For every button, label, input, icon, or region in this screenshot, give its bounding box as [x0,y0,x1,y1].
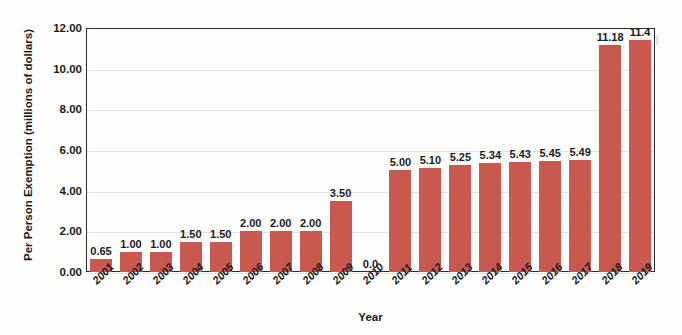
bar-value-label: 3.50 [323,187,359,199]
bar-slot: 5.45 [535,28,565,272]
bars-layer: 0.651.001.001.501.502.002.002.003.500.05… [86,28,655,272]
bar-slot: 1.50 [206,28,236,272]
x-axis-title: Year [86,311,655,323]
bar-slot: 5.49 [565,28,595,272]
bar-chart-figure: noitpmexE Per Person Exemption (millions… [0,0,682,335]
bar-slot: 3.50 [326,28,356,272]
bar-slot: 5.43 [505,28,535,272]
bar-value-label: 5.49 [562,146,598,158]
bar-slot: 5.00 [385,28,415,272]
y-axis-tick-label: 12.00 [22,22,82,34]
bar-slot: 0.0 [356,28,386,272]
bar-value-label: 11.4 [622,26,658,38]
bar-slot: 11.4 [625,28,655,272]
y-axis-tick-label: 4.00 [22,185,82,197]
bar [629,40,651,272]
y-axis-tick-label: 10.00 [22,63,82,75]
bar-slot: 11.18 [595,28,625,272]
y-axis-tick-label: 0.00 [22,266,82,278]
x-axis-tick-labels: 2001200220032004200520062007200820092010… [86,274,655,314]
bar-slot: 1.50 [176,28,206,272]
bar-slot: 0.65 [86,28,116,272]
y-axis-tick-label: 6.00 [22,144,82,156]
bar-slot: 5.25 [445,28,475,272]
bar-slot: 1.00 [146,28,176,272]
bar-slot: 5.34 [475,28,505,272]
bar-value-label: 2.00 [293,217,329,229]
bar [599,45,621,272]
bar-slot: 1.00 [116,28,146,272]
bar-slot: 2.00 [236,28,266,272]
bar-slot: 5.10 [415,28,445,272]
bar-slot: 2.00 [266,28,296,272]
y-axis-tick-label: 2.00 [22,225,82,237]
bar-slot: 2.00 [296,28,326,272]
y-axis-tick-label: 8.00 [22,103,82,115]
